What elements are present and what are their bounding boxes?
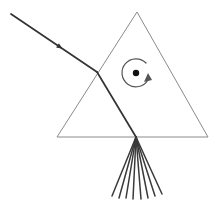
diagram-background: [0, 0, 220, 204]
diagram-canvas: [0, 0, 220, 204]
prism-dispersion-diagram: [0, 0, 220, 204]
prism-center-dot: [133, 70, 139, 76]
